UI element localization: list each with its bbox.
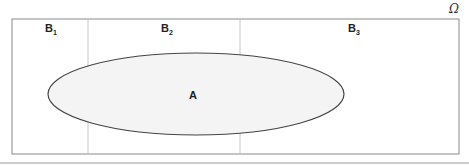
venn-diagram xyxy=(0,0,469,165)
partition-label-b2: B2 xyxy=(161,22,173,36)
universe-label: Ω xyxy=(449,2,459,16)
partition-label-b1: B1 xyxy=(45,22,57,36)
event-label-a: A xyxy=(189,89,197,101)
partition-label-b3: B3 xyxy=(348,22,360,36)
